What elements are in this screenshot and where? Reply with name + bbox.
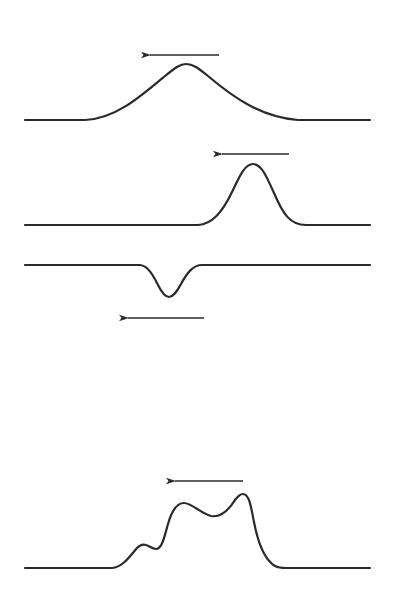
- panel-narrow-pulse: [25, 154, 370, 225]
- narrow-pulse-curve: [25, 164, 370, 225]
- panel-composite-pulse: [25, 481, 370, 568]
- composite-pulse-curve: [25, 494, 370, 568]
- panel-negative-pulse: [25, 265, 370, 318]
- wave-pulse-diagram: [0, 0, 395, 601]
- negative-pulse-curve: [25, 265, 370, 297]
- broad-pulse-curve: [25, 64, 370, 120]
- panel-broad-pulse: [25, 55, 370, 120]
